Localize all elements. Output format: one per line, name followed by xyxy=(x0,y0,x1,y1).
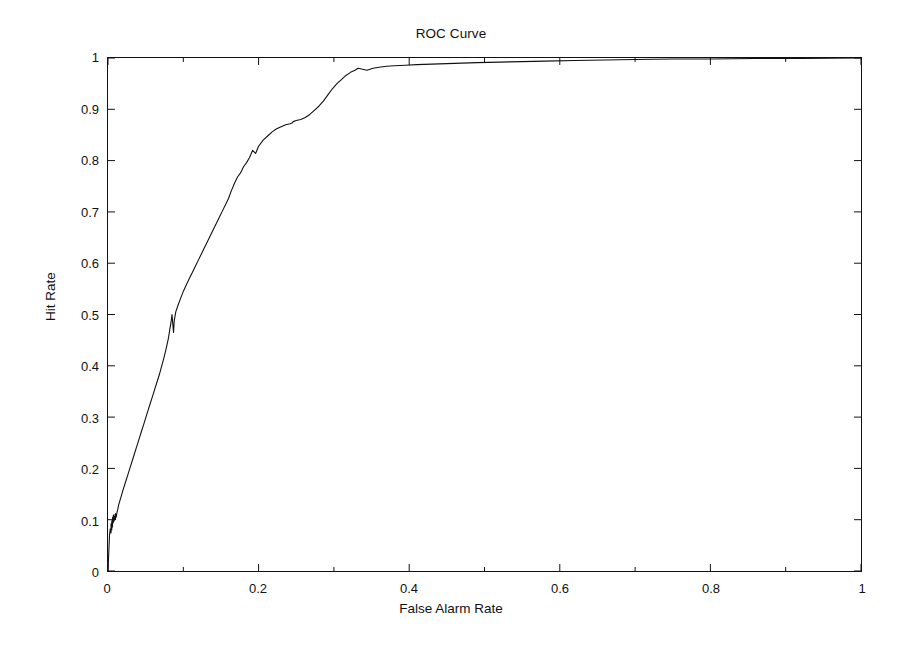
x-axis-label: False Alarm Rate xyxy=(0,601,902,616)
x-tick-label: 0.2 xyxy=(223,581,293,596)
roc-curve-figure: ROC Curve 00.10.20.30.40.50.60.70.80.91 … xyxy=(0,0,902,647)
y-tick-label: 0.8 xyxy=(39,153,99,168)
plot-area xyxy=(107,57,862,572)
x-tick-label: 0.8 xyxy=(676,581,746,596)
x-tick-label: 0.4 xyxy=(374,581,444,596)
axis-ticks xyxy=(108,58,861,571)
roc-curve-line xyxy=(108,58,861,571)
y-tick-label: 0.9 xyxy=(39,101,99,116)
roc-series-polyline xyxy=(108,58,861,571)
y-tick-label: 0 xyxy=(39,565,99,580)
y-tick-label: 0.2 xyxy=(39,462,99,477)
y-axis-label: Hit Rate xyxy=(43,242,58,352)
x-tick-label: 0.6 xyxy=(525,581,595,596)
y-tick-label: 1 xyxy=(39,50,99,65)
y-tick-label: 0.3 xyxy=(39,410,99,425)
x-tick-label: 0 xyxy=(72,581,142,596)
y-tick-label: 0.1 xyxy=(39,513,99,528)
y-tick-label: 0.7 xyxy=(39,204,99,219)
page-title: ROC Curve xyxy=(0,26,902,41)
y-tick-label: 0.4 xyxy=(39,359,99,374)
x-tick-label: 1 xyxy=(827,581,897,596)
